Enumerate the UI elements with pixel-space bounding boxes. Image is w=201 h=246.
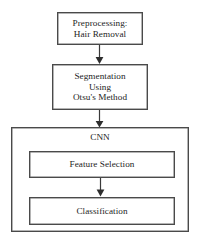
- arrow-feature-selection-to-classification: [94, 178, 107, 197]
- node-segmentation: Segmentation Using Otsu's Method: [52, 64, 148, 110]
- node-feature-selection: Feature Selection: [29, 151, 175, 178]
- arrow-segmentation-to-cnn: [93, 110, 106, 128]
- node-cnn-container: CNN Feature Selection Classification: [11, 127, 189, 232]
- node-segmentation-label: Segmentation Using Otsu's Method: [73, 71, 127, 104]
- node-classification: Classification: [29, 197, 175, 225]
- arrow-preprocessing-to-segmentation: [93, 45, 106, 65]
- flowchart-diagram: Preprocessing: Hair Removal Segmentation…: [0, 0, 201, 246]
- node-cnn-label: CNN: [12, 132, 188, 143]
- node-preprocessing-label: Preprocessing: Hair Removal: [73, 18, 128, 40]
- node-feature-selection-label: Feature Selection: [70, 159, 135, 170]
- node-classification-label: Classification: [76, 206, 127, 217]
- node-preprocessing: Preprocessing: Hair Removal: [57, 12, 143, 45]
